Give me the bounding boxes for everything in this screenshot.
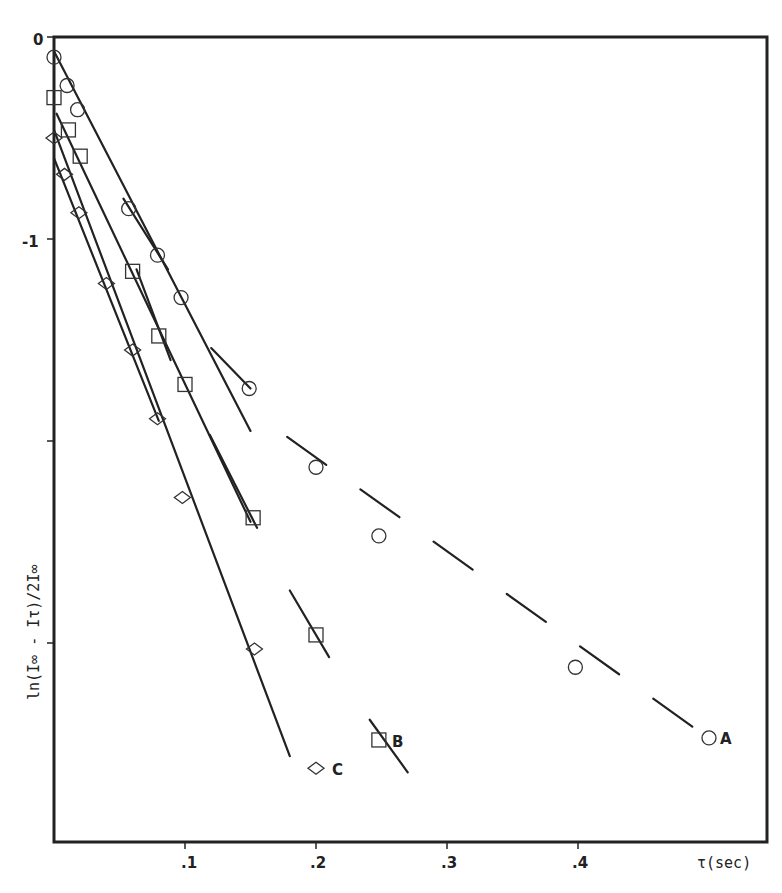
y-tick-label-0: 0 [33,31,43,49]
x-tick-label-0.1: .1 [181,854,197,872]
fit-line-b [210,435,257,528]
series-label-b: B [392,733,403,751]
y-tick-label-minus1: -1 [22,233,39,251]
axis-tick-labels: 0 -1 .1 .2 .3 .4 [22,31,588,872]
x-tick-label-0.3: .3 [441,854,457,872]
diamond-marker-c [308,762,324,774]
axis-ticks [47,37,578,849]
fit-lines [54,51,719,772]
x-tick-label-0.4: .4 [572,854,588,872]
y-axis-title: ln(I∞ - Iτ)/2I∞ [25,565,43,700]
fit-line-b [137,269,171,360]
fit-line-a [54,51,251,431]
fit-line-b [290,590,329,657]
x-tick-label-0.2: .2 [310,854,326,872]
x-axis-title: τ(sec) [697,854,751,872]
data-markers [46,50,716,774]
fit-line-c [54,130,290,756]
circle-marker-a [309,460,323,474]
fit-line-a [123,199,168,270]
series-label-a: A [720,730,732,748]
chart-canvas: 0 -1 .1 .2 .3 .4 τ(sec) ln(I∞ - Iτ)/2I∞ … [0,0,782,893]
circle-marker-a [71,103,85,117]
fit-line-a [287,437,719,746]
series-label-c: C [332,761,343,779]
circle-marker-a [702,731,716,745]
circle-marker-a [568,660,582,674]
plot-frame [54,37,767,842]
circle-marker-a [372,529,386,543]
diamond-marker-c [174,492,190,504]
